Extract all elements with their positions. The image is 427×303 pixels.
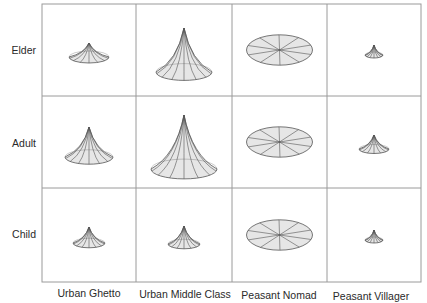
glyph-elder-urban-ghetto — [69, 43, 109, 63]
glyph-adult-urban-ghetto — [65, 127, 113, 164]
glyph-adult-urban-middle-class — [151, 115, 217, 179]
glyph-grid-figure — [0, 0, 427, 303]
glyph-child-peasant-villager — [365, 230, 383, 243]
column-label-urban-ghetto: Urban Ghetto — [39, 287, 139, 299]
row-label-elder: Elder — [0, 44, 36, 56]
glyph-child-peasant-nomad — [247, 220, 313, 250]
column-label-peasant-villager: Peasant Villager — [321, 290, 421, 302]
glyph-elder-peasant-villager — [365, 45, 383, 58]
glyph-adult-peasant-nomad — [247, 127, 313, 157]
glyph-elder-peasant-nomad — [247, 35, 313, 65]
glyph-child-urban-ghetto — [73, 227, 105, 248]
row-label-adult: Adult — [0, 137, 36, 149]
row-label-child: Child — [0, 228, 36, 240]
glyph-elder-urban-middle-class — [156, 28, 212, 80]
glyph-child-urban-middle-class — [168, 226, 200, 249]
glyph-adult-peasant-villager — [359, 135, 389, 154]
column-label-peasant-nomad: Peasant Nomad — [229, 289, 329, 301]
column-label-urban-middle-class: Urban Middle Class — [135, 288, 235, 300]
